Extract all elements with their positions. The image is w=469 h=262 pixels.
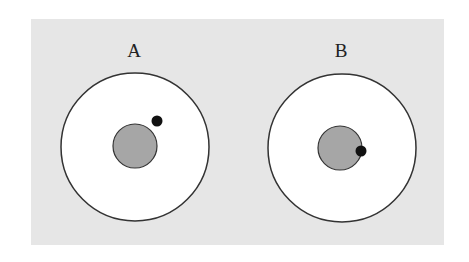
label-a: A — [127, 40, 141, 61]
inner-circle-b — [318, 126, 362, 170]
dot-a — [152, 116, 163, 127]
label-b: B — [335, 40, 348, 61]
inner-circle-a — [113, 124, 157, 168]
dot-b — [356, 146, 367, 157]
panel-b: B — [268, 40, 416, 222]
panel-a: A — [61, 40, 209, 221]
diagram: A B — [0, 0, 469, 262]
